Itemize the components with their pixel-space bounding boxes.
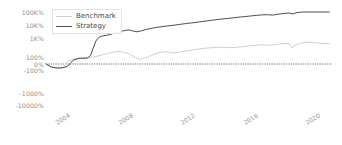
- y-tick-label: -10000%: [0, 102, 44, 109]
- x-tick-label: 2004: [54, 112, 71, 126]
- x-tick-label: 2008: [117, 112, 134, 126]
- y-tick-label: 10K%: [0, 22, 44, 29]
- x-tick-label: 2012: [179, 112, 196, 126]
- legend-swatch-strategy: [56, 26, 72, 27]
- cumulative-returns-chart: 100K%10K%1K%100%0%-100%-1000%-10000% 200…: [0, 0, 342, 145]
- y-tick-label: 1K%: [0, 35, 44, 42]
- chart-legend: Benchmark Strategy: [52, 9, 122, 34]
- legend-label-benchmark: Benchmark: [76, 12, 116, 21]
- x-tick-label: 2016: [242, 112, 259, 126]
- y-tick-label: 100%: [0, 54, 44, 61]
- legend-item-strategy: Strategy: [56, 22, 116, 31]
- legend-swatch-benchmark: [56, 16, 72, 17]
- y-tick-label: -100%: [0, 67, 44, 74]
- legend-label-strategy: Strategy: [76, 22, 106, 31]
- x-tick-label: 2020: [304, 112, 321, 126]
- y-tick-label: 100K%: [0, 9, 44, 16]
- y-tick-label: -1000%: [0, 90, 44, 97]
- legend-item-benchmark: Benchmark: [56, 12, 116, 21]
